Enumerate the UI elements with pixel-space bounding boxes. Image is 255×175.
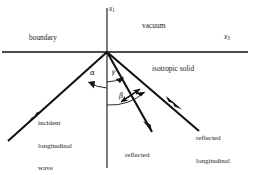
incident-longitudinal-wave-label: incident longitudinal wave [38,105,72,175]
boundary-label: boundary [29,34,57,42]
refl-long-label-line-2: longitudinal [196,158,230,166]
refl-long-label-line-1: reflected [196,135,230,143]
figure-canvas: x1 x3 boundary vacuum isotropic solid α … [0,0,255,175]
vacuum-label: vacuum [142,22,165,30]
incident-label-line-3: wave [38,165,72,173]
x3-axis-label: x3 [224,33,230,41]
x1-axis-subscript: 1 [112,7,115,13]
transverse-label-line-1: reflected [125,152,153,160]
isotropic-solid-label: isotropic solid [152,65,194,73]
x1-axis-label: x1 [109,5,115,13]
beta-angle-label: β [119,92,123,100]
reflected-longitudinal-wave-label: reflected longitudinal wave [196,120,230,175]
reflected-transverse-wave-label: reflected transverse wave [125,137,153,175]
gamma-angle-label: γ [111,68,115,76]
reflected-transverse-ray [107,52,152,132]
alpha-arc-arrowhead [88,81,95,89]
alpha-angle-label: α [90,69,95,77]
transverse-polarization-arrows [121,89,140,102]
beta-arc-arrowhead [136,92,146,97]
x3-axis-subscript: 3 [227,35,230,41]
reflected-longitudinal-arrowheads [166,96,182,110]
incident-label-line-2: longitudinal [38,143,72,151]
incident-label-line-1: incident [38,120,72,128]
